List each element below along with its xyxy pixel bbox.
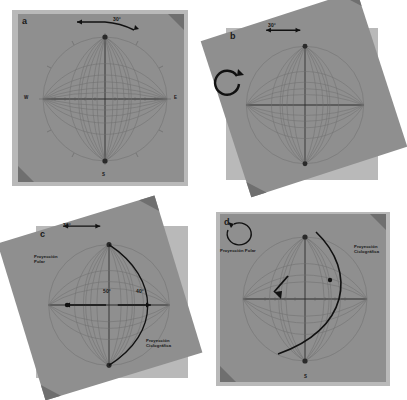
- panel-d-caption-polar: Proyección Polar: [220, 248, 256, 253]
- cyclographic-arc: [278, 232, 341, 354]
- panel-a-stereonet: [30, 24, 180, 174]
- panel-b-rotation-arrow: [206, 60, 246, 100]
- panel-c-label: c: [40, 230, 45, 239]
- panel-a-compass-south: S: [102, 172, 105, 178]
- panel-b-strike-angle: 30°: [268, 22, 276, 28]
- panel-d-rotation-arrow: [222, 218, 256, 248]
- fold-corner-icon: [41, 380, 61, 400]
- pole-point: [65, 303, 70, 308]
- panel-c-pole-angle: 40°: [136, 288, 144, 294]
- panel-a-label: a: [22, 17, 27, 26]
- panel-b: b: [208, 4, 400, 196]
- panel-a-strike-angle: 30°: [113, 16, 121, 22]
- panel-d-caption-cyclographic: Proyección Ciclográfica: [354, 244, 394, 255]
- fold-corner-icon: [341, 0, 361, 11]
- panel-d: d: [212, 208, 400, 396]
- panel-b-label: b: [230, 32, 236, 41]
- panel-c-caption-cyclographic: Proyección Ciclográfica: [146, 338, 186, 349]
- panel-c: c: [8, 204, 200, 398]
- panel-a-compass-east: E: [174, 95, 177, 101]
- fold-corner-icon: [246, 177, 266, 197]
- panel-d-compass-south: S: [304, 374, 307, 380]
- panel-a-compass-west: W: [24, 95, 28, 101]
- fold-corner-icon: [139, 196, 159, 216]
- panel-c-strike-angle: 30°: [63, 222, 71, 228]
- pole-pointer: [274, 276, 288, 292]
- panel-a: a: [8, 6, 198, 194]
- pole-point: [328, 278, 332, 282]
- panel-c-caption-polar: Proyección Polar: [34, 254, 68, 265]
- panel-b-stereonet: [234, 34, 376, 176]
- panel-c-dip-angle: 50°: [103, 288, 111, 294]
